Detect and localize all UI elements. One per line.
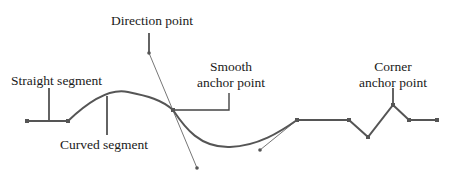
anchor-point — [66, 119, 70, 123]
smooth-anchor-label: Smooth anchor point — [190, 59, 272, 91]
direction-point — [258, 148, 262, 152]
anchor-point — [347, 118, 351, 122]
direction-point-label: Direction point — [111, 13, 193, 29]
corner-anchor-label-line2: anchor point — [352, 75, 434, 91]
anchor-point — [25, 119, 29, 123]
anchor-point — [407, 118, 411, 122]
anchor-point — [295, 118, 299, 122]
anchor-point — [435, 118, 439, 122]
smooth-anchor-label-line2: anchor point — [190, 75, 272, 91]
corner-anchor-label: Corner anchor point — [352, 59, 434, 91]
anchor-point — [366, 135, 370, 139]
direction-point — [195, 166, 199, 170]
smooth-anchor-point — [171, 108, 175, 112]
curved-segment-label: Curved segment — [60, 137, 148, 153]
corner-anchor-label-line1: Corner — [352, 59, 434, 75]
straight-segment-label: Straight segment — [11, 73, 102, 89]
anchor-points — [25, 103, 439, 139]
smooth-anchor-callout — [173, 93, 229, 110]
direction-point — [147, 51, 151, 55]
corner-anchor-point — [391, 103, 395, 107]
smooth-anchor-label-line1: Smooth — [190, 59, 272, 75]
